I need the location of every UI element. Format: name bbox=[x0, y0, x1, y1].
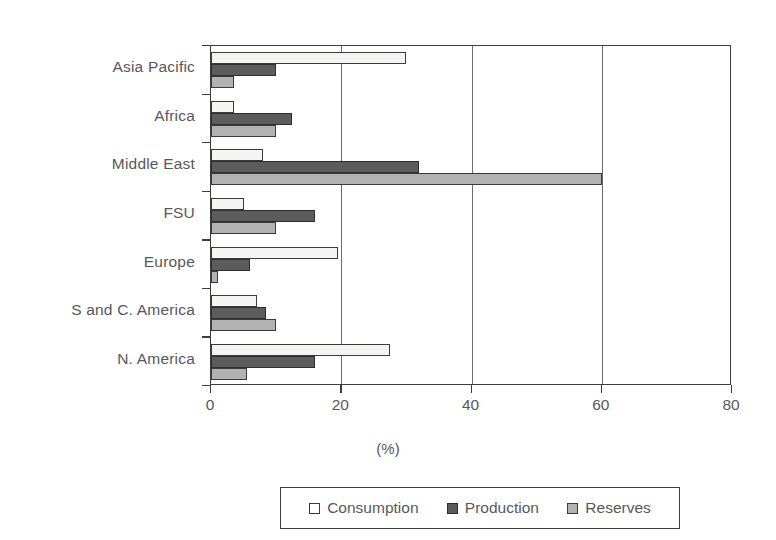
bar-slot bbox=[211, 52, 730, 64]
bar-slot bbox=[211, 368, 730, 380]
bar-fsu-production bbox=[211, 210, 315, 222]
y-axis-tick-3 bbox=[202, 191, 211, 192]
legend-label-reserves: Reserves bbox=[585, 499, 650, 517]
y-axis-label-middle-east: Middle East bbox=[112, 155, 195, 173]
bar-slot bbox=[211, 198, 730, 210]
bar-s-and-c-america-consumption bbox=[211, 295, 257, 307]
legend-item-production[interactable]: Production bbox=[447, 499, 539, 517]
y-axis-label-asia-pacific: Asia Pacific bbox=[112, 58, 195, 76]
y-axis-label-n-america: N. America bbox=[117, 350, 195, 368]
bar-middle-east-consumption bbox=[211, 149, 263, 161]
y-axis-tick-6 bbox=[202, 336, 211, 337]
bar-asia-pacific-consumption bbox=[211, 52, 406, 64]
bar-slot bbox=[211, 295, 730, 307]
bar-africa-consumption bbox=[211, 101, 234, 113]
y-axis-tick-5 bbox=[202, 288, 211, 289]
bar-slot bbox=[211, 247, 730, 259]
bar-slot bbox=[211, 307, 730, 319]
legend-item-consumption[interactable]: Consumption bbox=[309, 499, 418, 517]
y-axis-tick-4 bbox=[202, 239, 211, 240]
bar-n-america-reserves bbox=[211, 368, 247, 380]
y-axis-label-africa: Africa bbox=[154, 107, 195, 125]
bar-group-europe bbox=[211, 240, 730, 289]
bar-asia-pacific-reserves bbox=[211, 76, 234, 88]
bar-group-middle-east bbox=[211, 143, 730, 192]
bar-s-and-c-america-production bbox=[211, 307, 266, 319]
y-axis-label-fsu: FSU bbox=[163, 204, 195, 222]
bar-africa-reserves bbox=[211, 125, 276, 137]
bar-fsu-reserves bbox=[211, 222, 276, 234]
legend-label-production: Production bbox=[465, 499, 539, 517]
bar-europe-production bbox=[211, 259, 250, 271]
x-axis-label-0: 0 bbox=[206, 396, 215, 414]
legend-swatch-consumption-icon bbox=[309, 503, 320, 514]
bar-n-america-consumption bbox=[211, 344, 390, 356]
bar-slot bbox=[211, 161, 730, 173]
legend-swatch-production-icon bbox=[447, 503, 458, 514]
x-axis-label-20: 20 bbox=[332, 396, 349, 414]
x-axis-tick-40 bbox=[471, 385, 472, 393]
legend-swatch-reserves-icon bbox=[567, 503, 578, 514]
bar-slot bbox=[211, 344, 730, 356]
x-axis-label-80: 80 bbox=[722, 396, 739, 414]
bar-slot bbox=[211, 271, 730, 283]
x-axis-label-40: 40 bbox=[462, 396, 479, 414]
legend-label-consumption: Consumption bbox=[327, 499, 418, 517]
x-axis-tick-20 bbox=[340, 385, 341, 393]
x-axis-label-60: 60 bbox=[592, 396, 609, 414]
y-axis-tick-edge-0 bbox=[202, 45, 211, 46]
bar-middle-east-production bbox=[211, 161, 419, 173]
bar-slot bbox=[211, 173, 730, 185]
y-axis-label-europe: Europe bbox=[144, 253, 195, 271]
bar-slot bbox=[211, 113, 730, 125]
y-axis-tick-1 bbox=[202, 94, 211, 95]
x-axis-tick-60 bbox=[601, 385, 602, 393]
bar-asia-pacific-production bbox=[211, 64, 276, 76]
bar-slot bbox=[211, 125, 730, 137]
bar-group-s-and-c-america bbox=[211, 289, 730, 338]
bar-slot bbox=[211, 76, 730, 88]
bar-slot bbox=[211, 210, 730, 222]
bar-slot bbox=[211, 319, 730, 331]
bar-group-n-america bbox=[211, 337, 730, 386]
legend: ConsumptionProductionReserves bbox=[280, 487, 680, 529]
bar-europe-reserves bbox=[211, 271, 218, 283]
bar-slot bbox=[211, 101, 730, 113]
bar-n-america-production bbox=[211, 356, 315, 368]
bar-group-africa bbox=[211, 95, 730, 144]
bar-slot bbox=[211, 259, 730, 271]
bar-rows bbox=[211, 46, 730, 384]
bar-africa-production bbox=[211, 113, 292, 125]
bar-fsu-consumption bbox=[211, 198, 244, 210]
bar-slot bbox=[211, 64, 730, 76]
plot-area bbox=[210, 45, 731, 385]
bar-middle-east-reserves bbox=[211, 173, 602, 185]
bar-slot bbox=[211, 356, 730, 368]
bar-europe-consumption bbox=[211, 247, 338, 259]
y-axis-label-s-and-c-america: S and C. America bbox=[71, 301, 195, 319]
legend-item-reserves[interactable]: Reserves bbox=[567, 499, 650, 517]
x-axis-tick-80 bbox=[731, 385, 732, 393]
bar-slot bbox=[211, 222, 730, 234]
bar-s-and-c-america-reserves bbox=[211, 319, 276, 331]
bar-chart: Asia PacificAfricaMiddle EastFSUEuropeS … bbox=[0, 0, 776, 540]
bar-group-fsu bbox=[211, 192, 730, 241]
bar-slot bbox=[211, 149, 730, 161]
x-axis-title: (%) bbox=[0, 440, 776, 457]
bar-group-asia-pacific bbox=[211, 46, 730, 95]
y-axis-tick-2 bbox=[202, 142, 211, 143]
x-axis-tick-0 bbox=[210, 385, 211, 393]
